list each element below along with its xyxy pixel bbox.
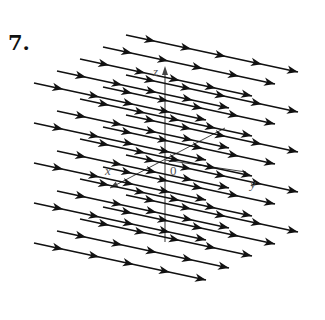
vector-field-figure: 7. z x y 0 bbox=[0, 0, 325, 320]
x-axis-label: x bbox=[105, 163, 111, 179]
problem-number: 7. bbox=[8, 30, 30, 55]
origin-label: 0 bbox=[170, 163, 177, 179]
y-axis-label: y bbox=[250, 176, 256, 192]
vector-field-plot bbox=[0, 0, 325, 320]
z-axis-arrow-icon bbox=[162, 66, 168, 75]
z-axis-label: z bbox=[153, 64, 158, 80]
